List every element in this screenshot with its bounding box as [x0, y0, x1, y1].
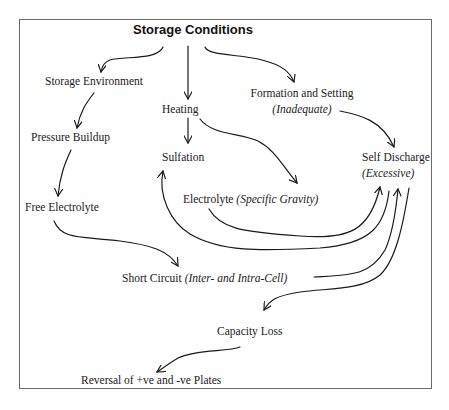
node-short-circuit: Short Circuit (Inter- and Intra-Cell) [122, 271, 287, 285]
node-label: Short Circuit [122, 272, 185, 284]
node-label: Free Electrolyte [25, 201, 99, 213]
node-qualifier: (Specific Gravity) [236, 193, 318, 205]
node-capacity-loss: Capacity Loss [217, 324, 282, 338]
node-label: Electrolyte [183, 193, 236, 205]
node-electrolyte: Electrolyte (Specific Gravity) [183, 192, 318, 206]
node-label: Storage Environment [45, 75, 143, 87]
node-sulfation: Sulfation [162, 150, 204, 164]
node-storage-environment: Storage Environment [45, 74, 143, 88]
diagram-title: Storage Conditions [133, 22, 253, 37]
node-label: Reversal of +ve and -ve Plates [81, 374, 221, 386]
node-reversal-plates: Reversal of +ve and -ve Plates [81, 373, 221, 387]
node-label: Self Discharge [362, 150, 430, 164]
node-label: Pressure Buildup [31, 131, 110, 143]
node-label: Capacity Loss [217, 325, 282, 337]
node-self-discharge: Self Discharge (Excessive) [362, 150, 430, 180]
node-qualifier: (Inter- and Intra-Cell) [185, 272, 288, 284]
node-heating: Heating [162, 102, 198, 116]
node-label: Formation and Setting [247, 86, 357, 100]
node-label: Sulfation [162, 151, 204, 163]
node-free-electrolyte: Free Electrolyte [25, 200, 99, 214]
node-pressure-buildup: Pressure Buildup [31, 130, 110, 144]
node-label: Heating [162, 103, 198, 115]
node-qualifier: (Inadequate) [247, 102, 357, 116]
node-qualifier: (Excessive) [362, 166, 430, 180]
node-formation-setting: Formation and Setting (Inadequate) [247, 86, 357, 116]
